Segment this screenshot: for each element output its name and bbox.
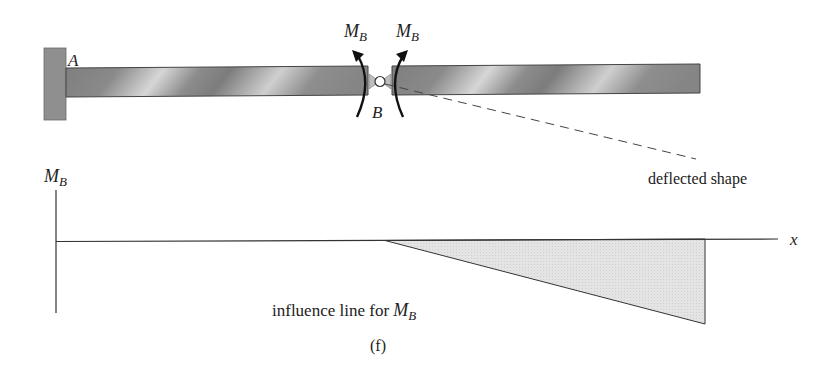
influence-area [385,239,705,324]
moment-label-left: MB [343,21,367,44]
hinge-icon [369,74,391,89]
influence-caption: influence line for MB [272,300,416,323]
beam-segment-left [66,66,368,97]
fixed-support-wall [44,48,66,120]
deflected-shape-label: deflected shape [648,170,747,188]
figure-label: (f) [370,337,386,355]
moment-label-right: MB [395,21,419,44]
support-label-a: A [67,51,79,70]
beam-segment-right [392,64,700,95]
deflected-shape-line [385,84,696,159]
y-axis-label: MB [43,166,67,189]
hinge-label-b: B [372,103,383,122]
influence-line-figure: A B MB MB deflected shape MB x influence… [0,0,834,384]
x-axis-label: x [789,230,798,249]
